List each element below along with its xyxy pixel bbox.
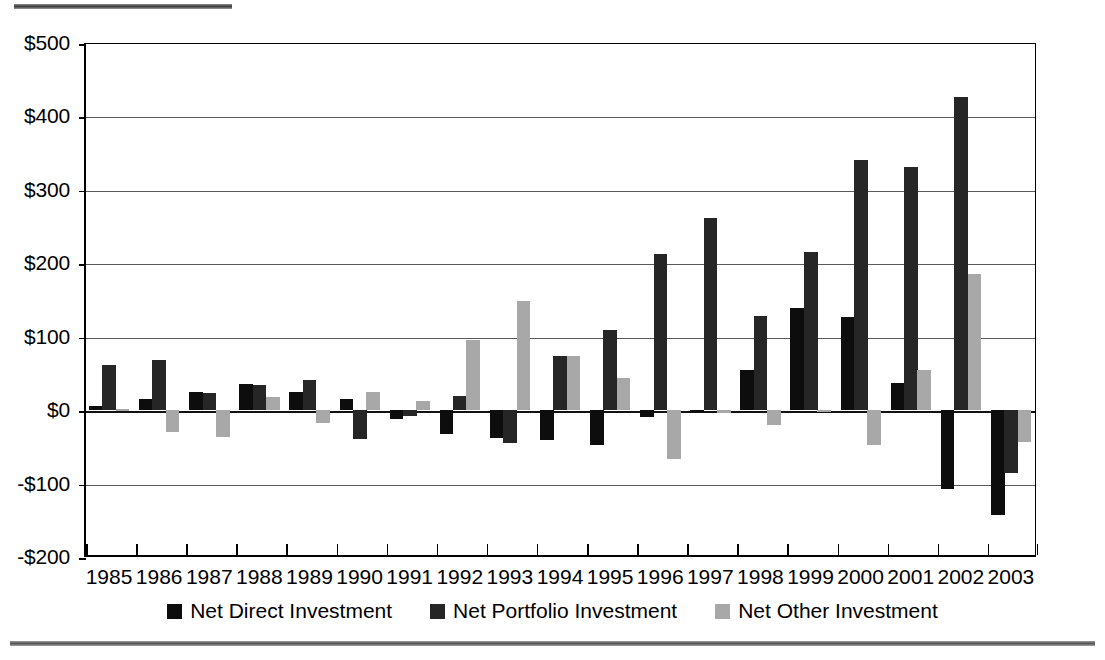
- x-axis-tick: [86, 544, 88, 555]
- x-axis-tick: [988, 544, 990, 555]
- x-axis-label: 1993: [485, 566, 535, 588]
- bottom-divider-rule: [10, 641, 1095, 646]
- legend-item-other[interactable]: Net Other Investment: [715, 600, 938, 622]
- x-axis-tick: [888, 544, 890, 555]
- bar-other-1985: [116, 409, 130, 411]
- bar-portfolio-2001: [904, 167, 918, 410]
- bar-portfolio-1989: [303, 380, 317, 410]
- chart-legend: Net Direct InvestmentNet Portfolio Inves…: [0, 600, 1105, 622]
- x-axis-tick: [737, 544, 739, 555]
- bar-other-1993: [517, 301, 531, 410]
- bar-direct-1985: [89, 406, 103, 410]
- legend-label: Net Other Investment: [738, 600, 938, 622]
- x-axis-label: 1986: [134, 566, 184, 588]
- bar-other-2002: [968, 274, 982, 410]
- bar-direct-1993: [490, 410, 504, 438]
- y-axis-tick: [79, 558, 86, 560]
- x-axis-label: 1987: [184, 566, 234, 588]
- bar-other-1987: [216, 410, 230, 436]
- y-axis-label: -$200: [0, 546, 70, 567]
- x-axis-label: 1998: [735, 566, 785, 588]
- bar-direct-1997: [690, 410, 704, 412]
- investment-flows-chart: $500$400$300$200$100$0-$100-$200 1985198…: [0, 0, 1105, 660]
- x-axis-tick: [236, 544, 238, 555]
- x-axis-label: 1988: [234, 566, 284, 588]
- bar-other-1994: [567, 356, 581, 410]
- y-axis-label: $200: [0, 252, 70, 273]
- bar-direct-2001: [891, 383, 905, 410]
- bar-direct-1994: [540, 410, 554, 440]
- bar-portfolio-1994: [553, 356, 567, 410]
- bar-direct-1988: [239, 384, 253, 410]
- bar-portfolio-1990: [353, 410, 367, 439]
- bar-portfolio-1992: [453, 396, 467, 410]
- x-axis-tick: [286, 544, 288, 555]
- y-axis-label: $400: [0, 105, 70, 126]
- y-axis-label: $0: [0, 399, 70, 420]
- bar-other-1990: [366, 392, 380, 410]
- x-axis-tick: [136, 544, 138, 555]
- bar-direct-2000: [841, 317, 855, 410]
- x-axis-label: 2000: [836, 566, 886, 588]
- gridline: [86, 191, 1035, 192]
- x-axis-label: 1985: [84, 566, 134, 588]
- bar-other-1989: [316, 410, 330, 423]
- x-axis-tick: [437, 544, 439, 555]
- x-axis-label: 1989: [284, 566, 334, 588]
- bar-portfolio-1999: [804, 252, 818, 410]
- x-axis-label: 2001: [886, 566, 936, 588]
- x-axis-label: 1992: [435, 566, 485, 588]
- bar-portfolio-1998: [754, 316, 768, 410]
- bar-portfolio-2003: [1004, 410, 1018, 472]
- bar-direct-1999: [790, 308, 804, 410]
- x-axis-label: 2003: [986, 566, 1036, 588]
- bar-other-2003: [1018, 410, 1032, 442]
- x-axis-label: 1994: [535, 566, 585, 588]
- x-axis-label: 1996: [635, 566, 685, 588]
- bar-other-1995: [617, 378, 631, 410]
- legend-label: Net Direct Investment: [190, 600, 392, 622]
- bar-other-1988: [266, 397, 280, 410]
- bar-portfolio-1985: [102, 365, 116, 410]
- bar-direct-2003: [991, 410, 1005, 515]
- bar-portfolio-1997: [704, 218, 718, 410]
- x-axis-label: 1990: [335, 566, 385, 588]
- legend-item-direct[interactable]: Net Direct Investment: [167, 600, 392, 622]
- x-axis-label: 1997: [685, 566, 735, 588]
- y-axis-tick: [79, 117, 86, 119]
- y-axis-tick: [79, 485, 86, 487]
- y-axis-tick: [79, 411, 86, 413]
- bar-portfolio-2002: [954, 97, 968, 411]
- bar-portfolio-1986: [152, 360, 166, 410]
- bar-direct-1990: [340, 399, 354, 410]
- bar-other-2001: [917, 370, 931, 410]
- bar-portfolio-1987: [203, 393, 217, 410]
- bar-portfolio-1988: [253, 385, 267, 410]
- x-axis-tick: [838, 544, 840, 555]
- bar-other-1986: [166, 410, 180, 432]
- bar-direct-1991: [390, 410, 404, 419]
- x-axis-tick: [687, 544, 689, 555]
- bar-other-1991: [416, 401, 430, 411]
- x-axis-tick: [487, 544, 489, 555]
- y-axis-tick: [79, 191, 86, 193]
- bar-other-1992: [466, 340, 480, 410]
- x-axis-label: 1991: [385, 566, 435, 588]
- x-axis-label: 1999: [785, 566, 835, 588]
- x-axis-tick: [587, 544, 589, 555]
- gridline: [86, 117, 1035, 118]
- bar-other-1998: [767, 410, 781, 425]
- bar-portfolio-1996: [654, 254, 668, 410]
- x-axis-label: 2002: [936, 566, 986, 588]
- bar-direct-1998: [740, 370, 754, 410]
- y-axis-label: $300: [0, 179, 70, 200]
- x-axis-tick: [337, 544, 339, 555]
- bar-direct-2002: [941, 410, 955, 489]
- bar-other-1999: [817, 410, 831, 412]
- x-axis-tick: [637, 544, 639, 555]
- legend-item-portfolio[interactable]: Net Portfolio Investment: [430, 600, 677, 622]
- y-axis-label: $500: [0, 32, 70, 53]
- y-axis-tick: [79, 264, 86, 266]
- bar-direct-1995: [590, 410, 604, 445]
- bar-other-1997: [717, 410, 731, 413]
